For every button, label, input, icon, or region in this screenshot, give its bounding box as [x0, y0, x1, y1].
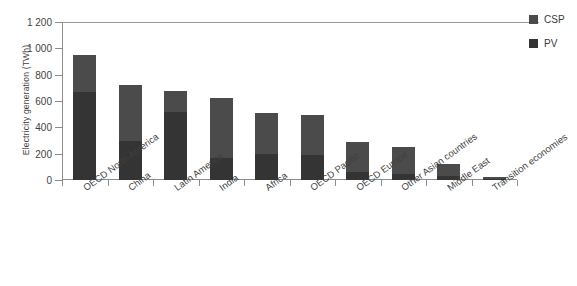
bar-segment-pv[interactable] — [73, 92, 96, 180]
bar-0[interactable] — [73, 55, 96, 180]
x-tick — [517, 180, 518, 186]
legend-swatch-csp — [529, 15, 538, 24]
chart-legend: CSP PV — [529, 14, 565, 62]
bar-segment-csp[interactable] — [255, 113, 278, 154]
legend-label-csp: CSP — [544, 14, 565, 25]
y-tick-label: 600 — [35, 96, 52, 107]
stacked-bar-chart: Electricity generation (TWh) 1 2001 0008… — [0, 0, 577, 286]
bar-segment-csp[interactable] — [301, 115, 324, 155]
y-tick-label: 200 — [35, 148, 52, 159]
y-tick — [55, 154, 62, 155]
bar-segment-csp[interactable] — [119, 85, 142, 140]
legend-swatch-pv — [529, 39, 538, 48]
bar-segment-csp[interactable] — [164, 91, 187, 111]
y-tick — [55, 180, 62, 181]
y-tick — [55, 48, 62, 49]
bar-segment-csp[interactable] — [210, 98, 233, 159]
y-tick-label: 1 200 — [27, 17, 52, 28]
y-tick — [55, 127, 62, 128]
y-tick-label: 800 — [35, 69, 52, 80]
bar-segment-pv[interactable] — [164, 112, 187, 180]
y-tick-label: 0 — [46, 175, 52, 186]
bar-segment-csp[interactable] — [73, 55, 96, 92]
legend-item-csp: CSP — [529, 14, 565, 25]
y-tick — [55, 75, 62, 76]
bar-4[interactable] — [255, 113, 278, 180]
x-axis-labels: OECD North AmericaChinaLatin AmericaIndi… — [62, 184, 517, 284]
legend-item-pv: PV — [529, 38, 565, 49]
y-tick-label: 400 — [35, 122, 52, 133]
bar-5[interactable] — [301, 115, 324, 180]
y-tick-label: 1 000 — [27, 43, 52, 54]
y-tick — [55, 22, 62, 23]
bar-2[interactable] — [164, 91, 187, 180]
legend-label-pv: PV — [544, 38, 557, 49]
y-tick — [55, 101, 62, 102]
